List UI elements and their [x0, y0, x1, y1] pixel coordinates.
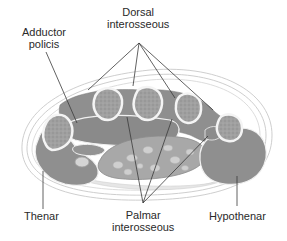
label-adductor-line2: policis: [22, 38, 66, 50]
label-dorsal-interosseous: Dorsal interosseous: [107, 6, 169, 30]
label-thenar: Thenar: [24, 210, 59, 222]
metacarpal-3: [134, 87, 162, 120]
label-palmar-line1: Palmar: [112, 209, 174, 221]
thenar-slip: [73, 144, 105, 155]
metacarpal-4: [176, 94, 201, 123]
vessel: [75, 157, 89, 167]
metacarpal-1: [43, 115, 72, 150]
label-palmar-line2: interosseous: [112, 221, 174, 233]
label-hypothenar-text: Hypothenar: [209, 210, 266, 222]
label-palmar-interosseous: Palmar interosseous: [112, 209, 174, 233]
label-adductor-pollicis: Adductor policis: [22, 26, 66, 50]
label-hypothenar: Hypothenar: [209, 210, 266, 222]
metacarpal-5: [217, 115, 242, 142]
metacarpal-2: [94, 88, 122, 120]
label-dorsal-line2: interosseous: [107, 18, 169, 30]
label-dorsal-line1: Dorsal: [107, 6, 169, 18]
label-adductor-line1: Adductor: [22, 26, 66, 38]
label-thenar-text: Thenar: [24, 210, 59, 222]
